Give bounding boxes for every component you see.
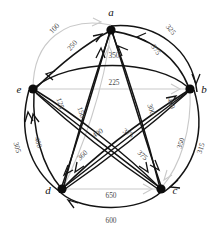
arrowhead-b-d-diagonal-1	[75, 162, 84, 172]
vertex-d-dot[interactable]	[57, 184, 66, 193]
weight-label-e-b-straight: 225	[108, 78, 119, 87]
vertex-label-a: a	[108, 6, 114, 18]
weight-label-e-a-chord: 250	[65, 38, 79, 53]
weight-label-a-d-curve: 360	[75, 148, 89, 162]
graph-figure: a b c d e 100 325 250 375 350 225 125 15…	[0, 0, 223, 233]
vertex-a-dot[interactable]	[106, 25, 115, 34]
arrowhead-e-a-arc	[92, 18, 101, 26]
arrowhead-a-b-outer-arc	[192, 74, 200, 84]
vertex-c-dot[interactable]	[156, 184, 165, 193]
vertex-e-dot[interactable]	[28, 84, 37, 93]
weight-label-e-a-arc: 100	[47, 21, 61, 35]
graph-canvas: a b c d e 100 325 250 375 350 225 125 15…	[0, 0, 223, 233]
vertex-label-b: b	[201, 83, 207, 95]
vertex-label-e: e	[17, 83, 22, 95]
weight-label-d-c-straight: 650	[105, 191, 116, 200]
vertex-label-c: c	[173, 184, 178, 196]
weight-label-a-b-outer: 325	[164, 22, 178, 37]
weight-label-e-d-outer: 305	[12, 141, 24, 154]
vertex-b-dot[interactable]	[185, 84, 194, 93]
weight-label-e-d-inner: 400	[33, 136, 45, 149]
arrowhead-e-c-diagonal-1	[139, 162, 148, 172]
weight-label-a-d-chord: 350	[108, 51, 119, 60]
weight-label-b-d-1: 300	[145, 103, 157, 117]
edge-a-b-outer-arc	[111, 26, 197, 92]
weight-label-d-c-outer: 600	[105, 216, 116, 225]
weight-label-a-c-curve: 375	[136, 148, 150, 162]
vertex-label-d: d	[45, 184, 51, 196]
